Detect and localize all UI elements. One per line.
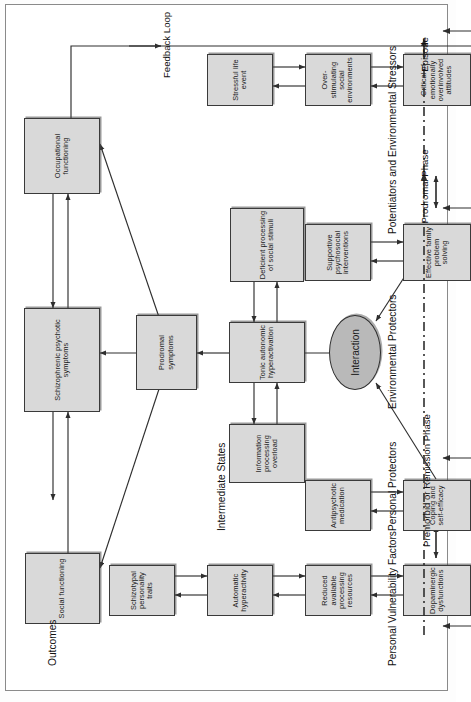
node-reduced-available-processing-resources[interactable]: Reduced available processing resources	[305, 565, 371, 616]
node-schizotypal-personality-traits[interactable]: Schizotypal personality traits	[109, 565, 175, 616]
node-social-functioning[interactable]: Social functioning	[25, 553, 100, 624]
node-supportive-psychosocial-interventions[interactable]: Supportive psychosocial interventions	[305, 224, 371, 281]
label-feedback-loop: Feedback Loop	[161, 11, 172, 77]
node-over-stimulating-social-environments[interactable]: Over-stimulating social environments	[305, 54, 371, 106]
phase-timeline: Premorbid or Remission Phase Prodromal P…	[401, 5, 447, 690]
phase-label-episode: Episode	[419, 18, 430, 92]
node-deficient-processing-of-social-stimuli[interactable]: Deficient processing of social stimuli	[230, 208, 304, 282]
phase-label-premorbid-or-remission: Premorbid or Remission Phase	[421, 396, 432, 566]
node-schizophrenic-psychotic-symptoms[interactable]: Schizophrenic psychotic symptoms	[24, 308, 100, 412]
node-interaction[interactable]: Interaction	[329, 315, 381, 390]
rotated-diagram-wrapper: Social functioning Schizophrenic psychot…	[11, 10, 443, 686]
node-automatic-hyperactivity[interactable]: Automatic hyperactivity	[207, 565, 273, 616]
node-stressful-life-event[interactable]: Stressful life event	[207, 54, 273, 106]
band-label-potentiators-and-environmental-stressors: Potentiators and Environmental Stressors	[387, 46, 398, 234]
band-label-personal-vulnerability-factors: Personal Vulnerability Factors	[387, 531, 398, 666]
band-label-personal-protectors: Personal Protectors	[387, 441, 398, 530]
node-tonic-autonomic-hyperactivation[interactable]: Tonic autonomic hyperactivation	[229, 322, 305, 383]
node-information-processing-overload[interactable]: Information processing overload	[229, 424, 305, 483]
node-antipsychotic-medication[interactable]: Antipsychotic medication	[305, 480, 371, 531]
phase-label-prodromal: Prodromal Phase	[419, 127, 430, 247]
band-label-environmental-protectors: Environmental Protectors	[387, 294, 398, 408]
node-prodromal-symptoms[interactable]: Prodromal symptoms	[136, 315, 197, 390]
diagram-canvas: Social functioning Schizophrenic psychot…	[11, 10, 443, 686]
band-label-outcomes: Outcomes	[47, 619, 58, 665]
band-label-intermediate-states: Intermediate States	[216, 442, 227, 530]
node-occupational-functioning[interactable]: Occupational functioning	[24, 118, 100, 194]
timeline-axis	[401, 5, 447, 690]
figure-frame: Social functioning Schizophrenic psychot…	[5, 4, 448, 691]
